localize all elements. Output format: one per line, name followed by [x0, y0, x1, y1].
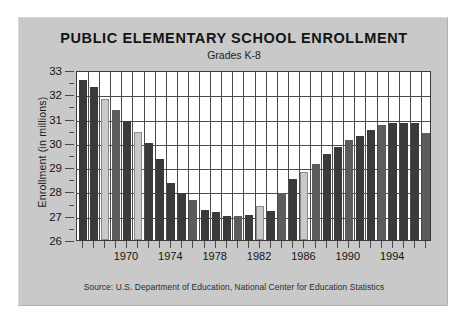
x-tick-mark — [115, 241, 116, 248]
bar — [411, 123, 419, 240]
y-tick-label: 30 — [22, 138, 62, 150]
chart-title: PUBLIC ELEMENTARY SCHOOL ENROLLMENT — [19, 30, 449, 46]
x-tick-mark — [414, 241, 415, 248]
bar — [156, 159, 164, 240]
bar — [356, 136, 364, 240]
bar — [378, 125, 386, 240]
x-tick-label: 1978 — [202, 250, 226, 262]
y-tick-label: 33 — [22, 65, 62, 77]
bar — [422, 133, 430, 240]
bar — [123, 121, 131, 240]
y-tick-mark — [65, 120, 74, 121]
x-tick-mark — [137, 241, 138, 248]
bar — [90, 87, 98, 240]
bar — [323, 154, 331, 240]
y-tick-mark — [65, 192, 74, 193]
y-tick-label: 31 — [22, 114, 62, 126]
bar — [145, 143, 153, 240]
bar — [101, 99, 109, 240]
bar — [300, 172, 308, 240]
x-tick-mark — [93, 241, 94, 248]
y-tick-mark — [65, 95, 74, 96]
x-tick-mark — [326, 241, 327, 248]
y-tick-mark — [65, 241, 74, 242]
bar — [167, 183, 175, 240]
y-tick-mark — [65, 71, 74, 72]
x-tick-mark — [337, 241, 338, 248]
x-tick-label: 1974 — [158, 250, 182, 262]
bar — [189, 200, 197, 240]
y-tick-mark-minor — [69, 132, 74, 133]
y-tick-mark — [65, 217, 74, 218]
x-tick-mark — [204, 241, 205, 248]
x-tick-mark — [82, 241, 83, 248]
bar — [334, 147, 342, 241]
x-tick-mark — [381, 241, 382, 248]
bar — [223, 216, 231, 240]
bar — [212, 212, 220, 240]
x-tick-label: 1970 — [114, 250, 138, 262]
bar — [234, 216, 242, 240]
y-axis-ticks: 2627282930313233 — [19, 71, 76, 241]
y-tick-mark — [65, 168, 74, 169]
bar — [178, 193, 186, 240]
y-tick-mark-minor — [69, 229, 74, 230]
bar — [400, 123, 408, 240]
x-tick-mark — [403, 241, 404, 248]
x-tick-mark — [192, 241, 193, 248]
x-tick-mark — [126, 241, 127, 248]
y-tick-mark-minor — [69, 180, 74, 181]
x-tick-mark — [292, 241, 293, 248]
bar — [312, 164, 320, 241]
y-tick-mark-minor — [69, 107, 74, 108]
bar — [289, 179, 297, 240]
y-tick-mark-minor — [69, 83, 74, 84]
y-tick-label: 32 — [22, 89, 62, 101]
x-tick-label: 1982 — [247, 250, 271, 262]
x-tick-mark — [237, 241, 238, 248]
y-tick-mark — [65, 144, 74, 145]
x-tick-mark — [392, 241, 393, 248]
bar — [245, 215, 253, 241]
x-tick-mark — [348, 241, 349, 248]
x-tick-mark — [359, 241, 360, 248]
x-tick-mark — [259, 241, 260, 248]
y-tick-mark-minor — [69, 205, 74, 206]
x-tick-mark — [315, 241, 316, 248]
x-tick-mark — [215, 241, 216, 248]
bar — [345, 140, 353, 240]
y-tick-label: 28 — [22, 186, 62, 198]
x-tick-mark — [104, 241, 105, 248]
bar — [79, 80, 87, 240]
x-tick-mark — [270, 241, 271, 248]
x-tick-mark — [370, 241, 371, 248]
y-tick-label: 29 — [22, 162, 62, 174]
x-tick-mark — [248, 241, 249, 248]
chart-subtitle: Grades K-8 — [19, 49, 449, 61]
y-tick-label: 27 — [22, 211, 62, 223]
x-tick-mark — [170, 241, 171, 248]
bar — [134, 132, 142, 240]
x-tick-mark — [148, 241, 149, 248]
bar — [256, 206, 264, 240]
x-tick-label: 1986 — [291, 250, 315, 262]
bar — [367, 130, 375, 241]
x-tick-mark — [425, 241, 426, 248]
x-tick-mark — [181, 241, 182, 248]
x-tick-label: 1994 — [380, 250, 404, 262]
source-note: Source: U.S. Department of Education, Na… — [19, 282, 449, 292]
y-tick-label: 26 — [22, 235, 62, 247]
x-axis-ticks: 1970197419781982198619901994 — [76, 241, 431, 281]
x-tick-mark — [159, 241, 160, 248]
x-tick-label: 1990 — [336, 250, 360, 262]
bar — [201, 210, 209, 240]
x-tick-mark — [281, 241, 282, 248]
x-tick-mark — [226, 241, 227, 248]
bar — [112, 110, 120, 240]
bar — [389, 123, 397, 240]
bar — [278, 193, 286, 240]
gridline-vertical — [232, 72, 233, 240]
bar — [267, 211, 275, 240]
y-tick-mark-minor — [69, 156, 74, 157]
x-tick-mark — [303, 241, 304, 248]
